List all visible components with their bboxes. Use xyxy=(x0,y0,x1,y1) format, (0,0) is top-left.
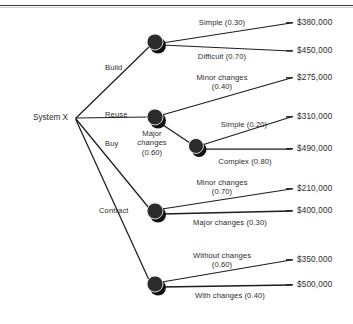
chance-node-reuse[interactable] xyxy=(147,109,163,125)
outcome-label-7: Major changes (0.30) xyxy=(193,218,267,227)
chance-node-complex[interactable] xyxy=(189,139,204,154)
payoff-value-5: $210,000 xyxy=(297,184,332,193)
chance-node-buy[interactable] xyxy=(147,203,163,219)
chance-node-contract[interactable] xyxy=(147,276,163,292)
payoff-value-7: $350,000 xyxy=(297,255,332,264)
payoff-value-4: $490,000 xyxy=(297,144,332,153)
root-node-label: System X xyxy=(33,113,68,122)
edge-contract-with xyxy=(162,285,291,287)
outcome-label-1: Difficult (0.70) xyxy=(198,52,246,61)
outcome-label-2: Minor changes (0.40) xyxy=(196,73,247,92)
payoff-value-1: $450,000 xyxy=(297,46,332,55)
branch-label-buy: Buy xyxy=(105,139,118,148)
outcome-label-6: Minor changes (0.70) xyxy=(196,178,247,197)
payoff-value-0: $380,000 xyxy=(297,18,332,27)
outcome-label-3: Major changes (0.60) xyxy=(137,129,166,157)
decision-tree-figure: System XBuildReuseBuyContractSimple (0.3… xyxy=(0,0,353,324)
outcome-label-8: Without changes (0.60) xyxy=(193,251,251,270)
edge-build xyxy=(76,46,150,118)
chance-node-build[interactable] xyxy=(147,34,163,50)
edge-buy-major xyxy=(162,211,291,214)
edge-build-difficult xyxy=(162,45,291,51)
payoff-value-6: $400,000 xyxy=(297,206,332,215)
payoff-value-8: $500,000 xyxy=(297,280,332,289)
outcome-label-5: Complex (0.80) xyxy=(218,157,271,166)
payoff-value-2: $275,000 xyxy=(297,73,332,82)
branch-label-contract: Contract xyxy=(99,206,129,215)
payoff-value-3: $310,000 xyxy=(297,112,332,121)
branch-label-reuse: Reuse xyxy=(105,110,127,119)
outcome-label-4: Simple (0.20) xyxy=(221,120,267,129)
outcome-label-9: With changes (0.40) xyxy=(195,291,265,300)
outcome-label-0: Simple (0.30) xyxy=(199,18,245,27)
branch-label-build: Build xyxy=(105,63,122,72)
